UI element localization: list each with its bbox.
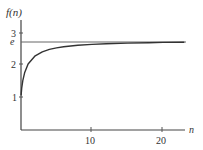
y-tick-label-1: 1 bbox=[12, 92, 17, 103]
y-axis-label: f(n) bbox=[6, 6, 22, 19]
chart: f(n) 3 e 2 1 10 20 n bbox=[0, 0, 203, 150]
x-tick-label-20: 20 bbox=[156, 135, 166, 146]
curve-f-n bbox=[21, 42, 184, 95]
y-tick-label-2: 2 bbox=[11, 59, 16, 70]
y-tick-label-e: e bbox=[10, 36, 15, 47]
x-tick-label-10: 10 bbox=[85, 135, 95, 146]
x-axis-label: n bbox=[189, 124, 194, 135]
